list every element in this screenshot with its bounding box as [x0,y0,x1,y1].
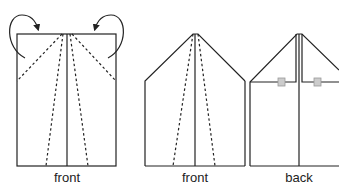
panel-1-label: front [54,170,80,185]
panel-2-label: front [182,170,208,185]
panel-3-label: back [285,170,312,185]
panel-1-front [10,15,124,166]
flap-right [302,34,339,82]
fold-arrow-left-icon [10,15,38,58]
panel-2-front [145,34,245,166]
fold-lines [173,34,215,166]
fold-arrow-right-icon [95,15,123,58]
tab-left-icon [278,78,285,86]
paper-outline [250,34,339,166]
tab-right-icon [314,78,321,86]
fold-diagram [0,0,339,194]
panel-3-back [250,34,339,166]
